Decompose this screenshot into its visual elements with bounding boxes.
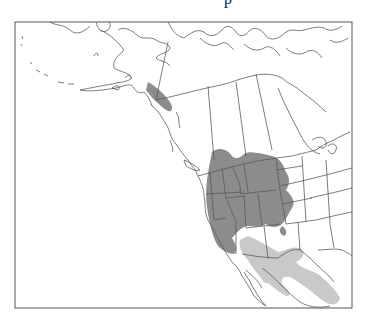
map-frame-border — [15, 22, 352, 308]
map-borders — [21, 22, 352, 307]
range-secondary — [239, 236, 340, 304]
range-primary — [146, 82, 294, 254]
range-map — [0, 0, 369, 324]
